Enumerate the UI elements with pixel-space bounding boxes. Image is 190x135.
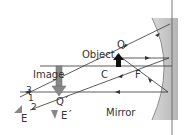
eye-e-prime-icon xyxy=(51,110,58,119)
object-arrow-shaft xyxy=(116,59,121,67)
label-c: C xyxy=(101,70,108,80)
label-object: Object xyxy=(82,50,115,60)
ray-arrowhead xyxy=(118,74,123,78)
label-image: Image xyxy=(33,70,64,80)
label-ray-2: 2 xyxy=(31,103,37,112)
label-q: Q xyxy=(117,40,125,50)
ray-focal xyxy=(118,55,168,92)
label-f: F xyxy=(135,70,141,80)
eye-e-icon xyxy=(14,105,22,113)
label-mirror: Mirror xyxy=(106,108,135,118)
label-eye-e: E xyxy=(21,114,27,124)
image-arrow-head xyxy=(52,86,66,96)
ray-arrowhead xyxy=(115,90,120,94)
ray-diagram xyxy=(0,0,190,135)
label-q-prime: Q´ xyxy=(56,97,69,107)
label-eye-e-prime: E´ xyxy=(61,111,72,121)
mirror-body xyxy=(152,18,178,120)
ray-arrowhead xyxy=(145,56,150,60)
